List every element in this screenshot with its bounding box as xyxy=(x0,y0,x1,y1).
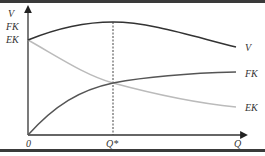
curve-label-fk: FK xyxy=(244,68,259,79)
curve-label-v: V xyxy=(245,42,253,53)
x-label-origin: 0 xyxy=(26,138,31,149)
y-label-ek: EK xyxy=(5,34,20,45)
curve-label-ek: EK xyxy=(244,102,259,113)
x-label-q: Q xyxy=(234,138,242,149)
v-curve xyxy=(28,22,236,47)
x-label-q-star: Q* xyxy=(106,138,118,149)
diagram: V FK EK V FK EK 0 Q* Q xyxy=(0,0,265,156)
y-label-fk: FK xyxy=(5,21,20,32)
y-label-v: V xyxy=(8,8,16,19)
